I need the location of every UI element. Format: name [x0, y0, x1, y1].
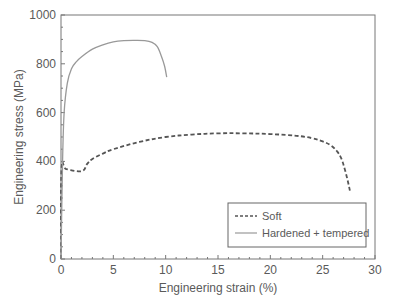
y-tick-label: 600: [36, 106, 56, 120]
x-axis-tick-labels: 051015202530: [58, 263, 382, 277]
x-tick-label: 30: [368, 263, 382, 277]
y-tick-label: 800: [36, 57, 56, 71]
x-tick-label: 0: [58, 263, 65, 277]
series-hardened-tempered-line: [61, 40, 167, 259]
y-axis-title: Engineering stress (MPa): [12, 69, 26, 204]
y-tick-label: 0: [49, 252, 56, 266]
x-axis-ticks: [61, 255, 375, 259]
legend-hardened-label: Hardened + tempered: [262, 227, 369, 239]
legend-soft-label: Soft: [262, 210, 282, 222]
x-tick-label: 20: [264, 263, 278, 277]
y-axis-tick-labels: 02004006008001000: [29, 8, 56, 266]
x-tick-label: 10: [159, 263, 173, 277]
stress-strain-chart: 051015202530 02004006008001000 Engineeri…: [0, 0, 395, 308]
y-tick-label: 400: [36, 154, 56, 168]
y-tick-label: 200: [36, 203, 56, 217]
legend-box: [228, 203, 366, 247]
x-tick-label: 25: [316, 263, 330, 277]
legend: Soft Hardened + tempered: [228, 203, 369, 247]
y-tick-label: 1000: [29, 8, 56, 22]
x-axis-title: Engineering strain (%): [159, 281, 278, 295]
x-tick-label: 5: [110, 263, 117, 277]
x-tick-label: 15: [211, 263, 225, 277]
